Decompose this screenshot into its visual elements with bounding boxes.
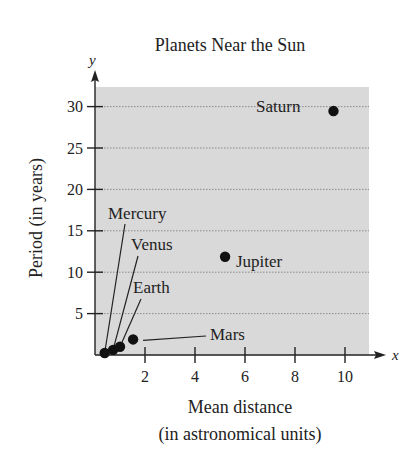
point-earth [115,342,125,352]
x-tick-label: 8 [291,368,299,385]
x-tick-label: 6 [241,368,249,385]
y-tick-label: 10 [67,264,83,281]
point-mars [128,334,138,344]
y-tick-label: 5 [75,305,83,322]
y-tick-label: 15 [67,222,83,239]
y-axis-label: Period (in years) [26,158,47,278]
scatter-chart: Planets Near the Sun x y 510152025302468… [0,0,418,452]
point-jupiter [220,252,230,262]
y-tick-label: 25 [67,140,83,157]
x-axis-letter: x [391,347,399,363]
label-mercury: Mercury [108,204,167,223]
label-earth: Earth [133,278,170,297]
label-saturn: Saturn [256,97,301,116]
chart-title: Planets Near the Sun [155,35,305,55]
y-tick-label: 20 [67,181,83,198]
x-tick-label: 10 [337,368,353,385]
label-mars: Mars [210,325,245,344]
y-tick-label: 30 [67,98,83,115]
label-venus: Venus [131,235,173,254]
x-tick-label: 2 [141,368,149,385]
point-saturn [328,106,338,116]
y-axis-letter: y [87,52,96,68]
label-jupiter: Jupiter [236,252,283,271]
x-axis-label: Mean distance [188,397,292,417]
x-tick-label: 4 [191,368,199,385]
x-axis-sublabel: (in astronomical units) [159,424,322,445]
